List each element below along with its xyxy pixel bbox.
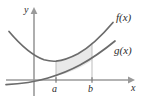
area-between-curves-figure: f(x) g(x) a b x y [0, 0, 144, 102]
y-axis-arrowhead [31, 7, 38, 14]
curve-label-g-of-x: g(x) [114, 45, 132, 56]
curve-f-of-x [9, 23, 113, 62]
axis-label-b: b [88, 84, 93, 94]
x-axis-label: x [131, 83, 135, 93]
curve-label-f-of-x: f(x) [116, 12, 131, 23]
y-axis-label: y [24, 5, 28, 15]
axis-label-a: a [52, 84, 57, 94]
